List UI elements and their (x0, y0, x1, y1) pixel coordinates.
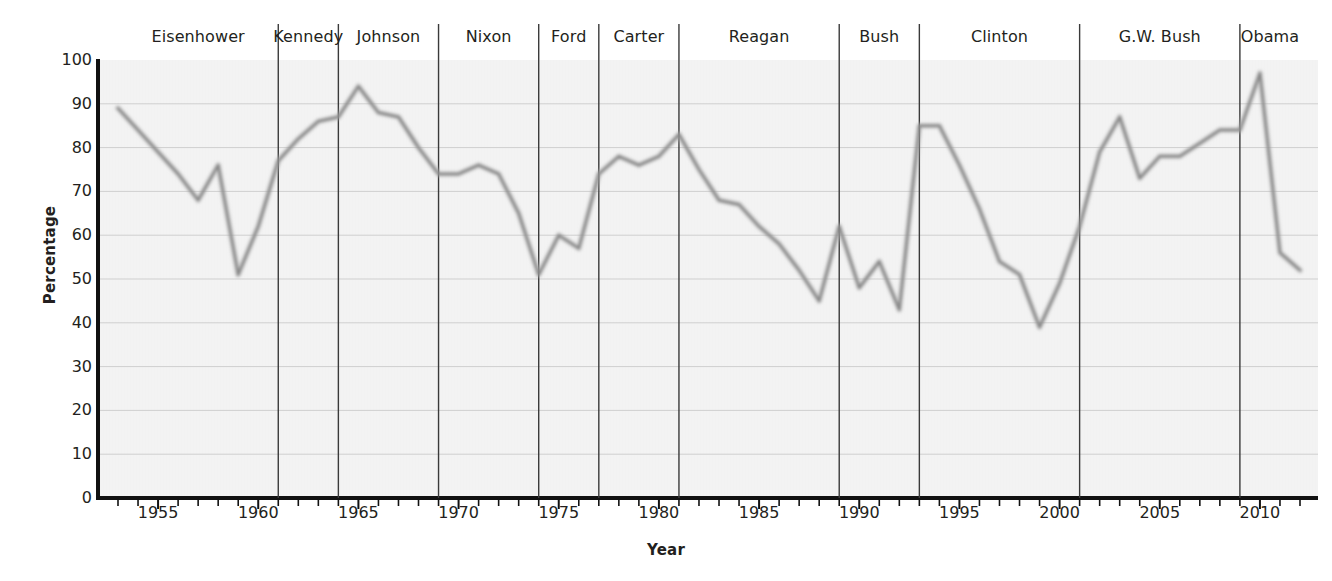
x-axis-tick-label: 1955 (138, 505, 179, 521)
x-axis-tick-label: 1970 (438, 505, 479, 521)
president-band-label: Bush (859, 28, 899, 46)
x-axis-tick-label: 1995 (939, 505, 980, 521)
x-axis-tick-label: 1990 (839, 505, 880, 521)
x-axis-tick-label: 2000 (1039, 505, 1080, 521)
line-chart-plot (0, 0, 1332, 581)
x-axis-tick-label: 1985 (739, 505, 780, 521)
president-band-label: G.W. Bush (1119, 28, 1201, 46)
president-band-label: Johnson (357, 28, 421, 46)
president-band-label: Eisenhower (151, 28, 244, 46)
president-band-label: Reagan (729, 28, 790, 46)
president-band-label: Obama (1241, 28, 1299, 46)
x-axis-tick-label: 1980 (639, 505, 680, 521)
president-band-label: Ford (551, 28, 586, 46)
president-band-label: Carter (613, 28, 664, 46)
x-axis-tick-label: 1960 (238, 505, 279, 521)
x-axis-tick-label: 2005 (1139, 505, 1180, 521)
x-axis-tick-label: 1965 (338, 505, 379, 521)
president-band-label: Kennedy (273, 28, 343, 46)
x-axis-tick-label: 2010 (1240, 505, 1281, 521)
president-band-label: Nixon (466, 28, 512, 46)
president-band-label: Clinton (971, 28, 1028, 46)
chart-figure: 0102030405060708090100 Percentage Year 1… (0, 0, 1332, 581)
x-axis-tick-label: 1975 (538, 505, 579, 521)
